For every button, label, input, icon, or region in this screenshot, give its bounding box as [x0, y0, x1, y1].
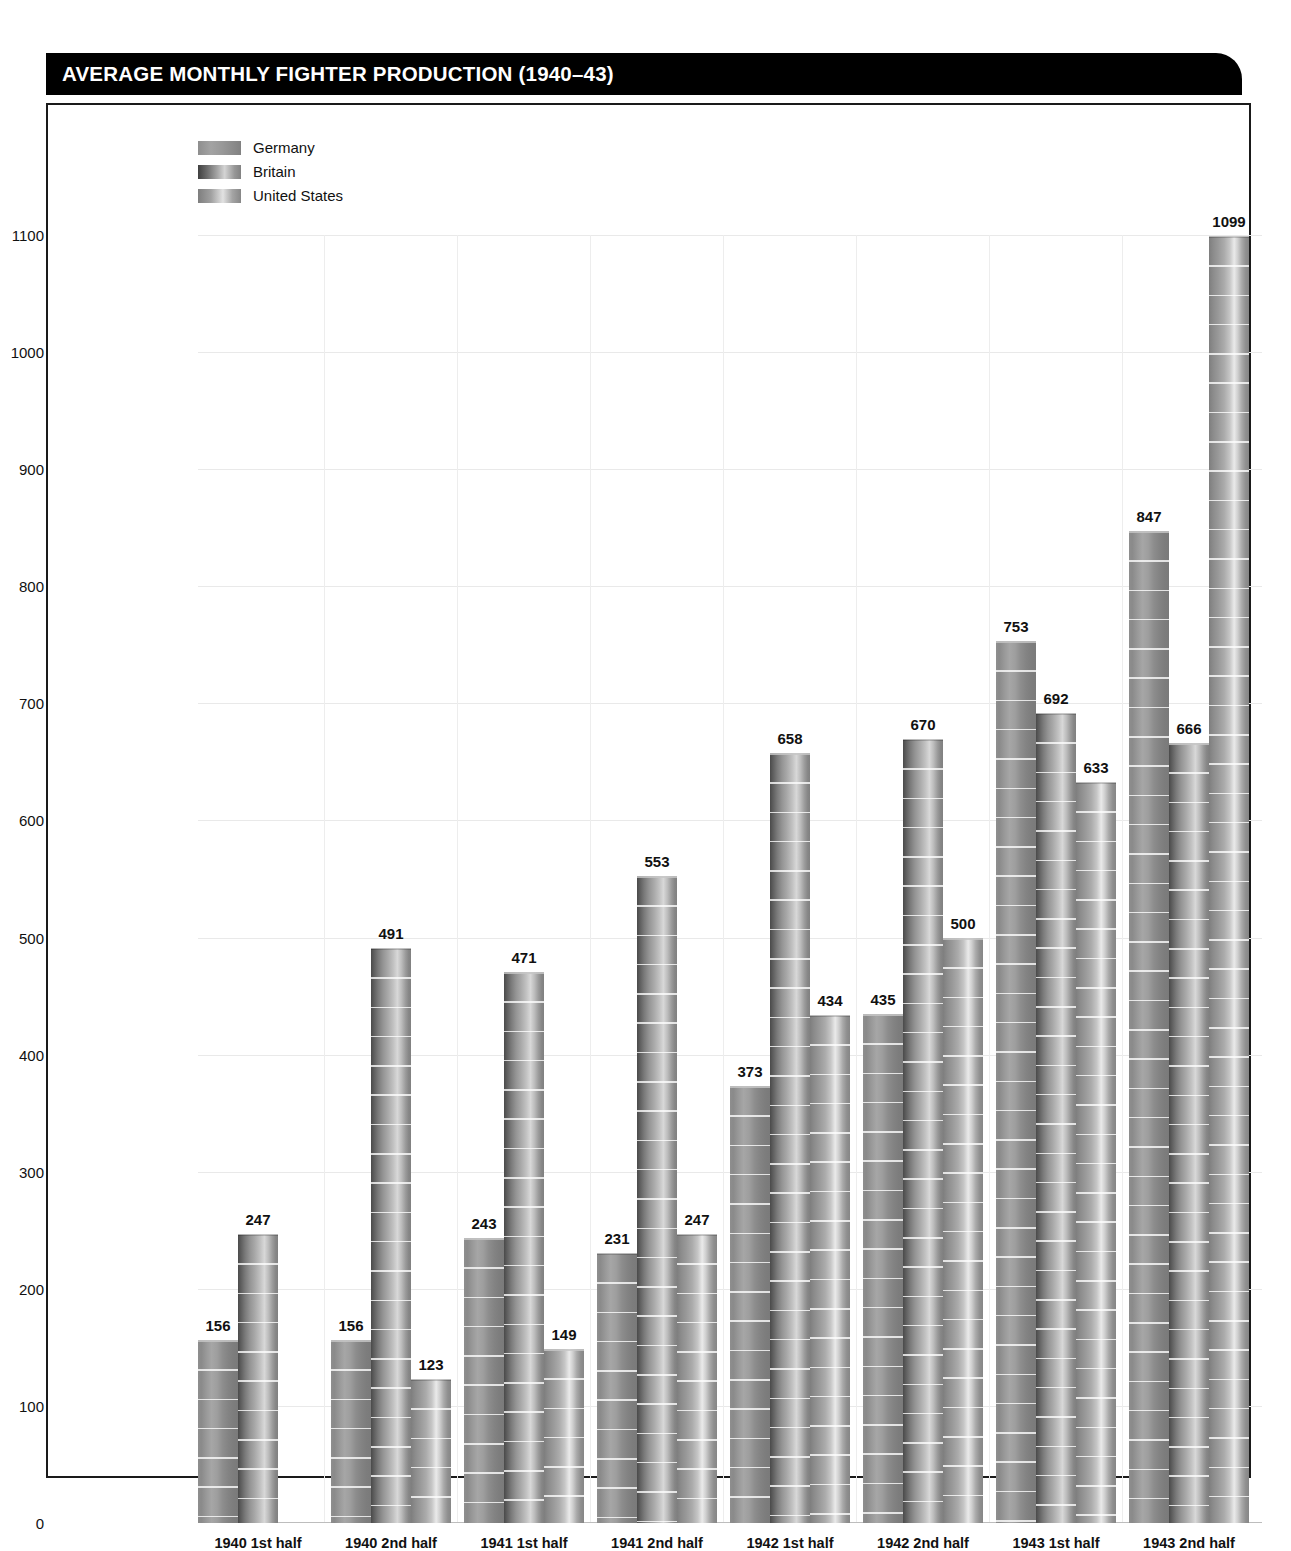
y-axis-tick-label: 900: [0, 461, 44, 478]
bar-top-edge: [464, 1238, 504, 1240]
bar-us: [943, 938, 983, 1523]
y-axis-tick-label: 500: [0, 929, 44, 946]
bar-value-label: 434: [817, 992, 842, 1009]
legend-label-united-states: United States: [253, 187, 343, 204]
bar-group: 753692633: [996, 235, 1116, 1523]
title-banner: AVERAGE MONTHLY FIGHTER PRODUCTION (1940…: [46, 53, 1242, 95]
bar-group: 243471149: [464, 235, 584, 1523]
y-axis-tick-label: 1100: [0, 227, 44, 244]
bar-top-edge: [238, 1234, 278, 1236]
bar-us: [677, 1234, 717, 1523]
bar-top-edge: [1209, 236, 1249, 238]
bar-value-label: 247: [245, 1211, 270, 1228]
bar-segment-rings: [238, 1234, 278, 1523]
bar-top-edge: [1129, 531, 1169, 533]
bar-value-label: 435: [870, 991, 895, 1008]
y-axis-tick-label: 100: [0, 1397, 44, 1414]
bar-top-edge: [198, 1340, 238, 1342]
bar-top-edge: [1036, 713, 1076, 715]
bar-segment-rings: [863, 1014, 903, 1523]
bar-segment-rings: [331, 1340, 371, 1523]
bar-group: 156491123: [331, 235, 451, 1523]
bar-top-edge: [996, 641, 1036, 643]
x-axis-tick-label: 1940 2nd half: [345, 1535, 437, 1551]
bar-us: [810, 1015, 850, 1523]
x-axis-tick-label: 1942 1st half: [746, 1535, 833, 1551]
bar-value-label: 156: [205, 1317, 230, 1334]
bar-segment-rings: [597, 1253, 637, 1523]
bar-value-label: 658: [777, 730, 802, 747]
bar-group: 231553247: [597, 235, 717, 1523]
bar-britain: [1036, 713, 1076, 1523]
bar-segment-rings: [810, 1015, 850, 1523]
bar-segment-rings: [504, 972, 544, 1523]
bar-segment-rings: [198, 1340, 238, 1523]
bar-segment-rings: [1129, 531, 1169, 1523]
y-axis-tick-label: 0: [0, 1515, 44, 1532]
bar-value-label: 231: [604, 1230, 629, 1247]
bar-top-edge: [770, 753, 810, 755]
chart-legend: Germany Britain United States: [198, 137, 398, 209]
bar-top-edge: [411, 1379, 451, 1381]
bar-germany: [996, 641, 1036, 1523]
bar-segment-rings: [943, 938, 983, 1523]
bar-top-edge: [730, 1086, 770, 1088]
bar-germany: [730, 1086, 770, 1523]
y-axis-tick-label: 800: [0, 578, 44, 595]
y-axis-tick-label: 200: [0, 1280, 44, 1297]
bar-value-label: 156: [338, 1317, 363, 1334]
bar-us: [1076, 782, 1116, 1523]
x-axis-tick-label: 1943 1st half: [1012, 1535, 1099, 1551]
bar-britain: [903, 739, 943, 1524]
bar-group: 373658434: [730, 235, 850, 1523]
bar-value-label: 1099: [1212, 213, 1245, 230]
bar-britain: [371, 948, 411, 1523]
bar-britain: [1169, 743, 1209, 1523]
bar-germany: [464, 1238, 504, 1523]
bar-top-edge: [903, 739, 943, 741]
bar-top-edge: [1076, 782, 1116, 784]
bar-value-label: 149: [551, 1326, 576, 1343]
bar-value-label: 373: [737, 1063, 762, 1080]
bar-us: [1209, 236, 1249, 1523]
bar-value-label: 666: [1176, 720, 1201, 737]
category-separator: [723, 235, 724, 1523]
bar-value-label: 692: [1043, 690, 1068, 707]
x-axis-tick-label: 1943 2nd half: [1143, 1535, 1235, 1551]
bar-value-label: 753: [1003, 618, 1028, 635]
category-separator: [989, 235, 990, 1523]
bar-value-label: 243: [471, 1215, 496, 1232]
bar-value-label: 123: [418, 1356, 443, 1373]
plot-area: 010020030040050060070080090010001100 156…: [198, 235, 1262, 1523]
bar-segment-rings: [1169, 743, 1209, 1523]
bar-segment-rings: [544, 1349, 584, 1523]
bar-germany: [1129, 531, 1169, 1523]
bar-segment-rings: [1076, 782, 1116, 1523]
bar-segment-rings: [903, 739, 943, 1524]
bar-top-edge: [544, 1349, 584, 1351]
bar-germany: [331, 1340, 371, 1523]
x-axis-tick-label: 1942 2nd half: [877, 1535, 969, 1551]
y-axis-tick-label: 600: [0, 812, 44, 829]
bar-top-edge: [597, 1253, 637, 1255]
x-axis-tick-label: 1940 1st half: [214, 1535, 301, 1551]
bar-top-edge: [637, 876, 677, 878]
bar-segment-rings: [1209, 236, 1249, 1523]
legend-label-britain: Britain: [253, 163, 296, 180]
legend-item-germany: Germany: [198, 137, 398, 158]
bar-top-edge: [331, 1340, 371, 1342]
bar-germany: [863, 1014, 903, 1523]
bar-britain: [637, 876, 677, 1524]
bar-segment-rings: [770, 753, 810, 1523]
bar-segment-rings: [677, 1234, 717, 1523]
page-title: AVERAGE MONTHLY FIGHTER PRODUCTION (1940…: [62, 62, 614, 86]
plot-frame: Germany Britain United States 0100200300…: [46, 103, 1251, 1478]
x-axis-tick-label: 1941 1st half: [480, 1535, 567, 1551]
y-axis-tick-label: 1000: [0, 344, 44, 361]
bar-value-label: 247: [684, 1211, 709, 1228]
bar-germany: [198, 1340, 238, 1523]
bar-segment-rings: [371, 948, 411, 1523]
bar-britain: [504, 972, 544, 1523]
category-separator: [1122, 235, 1123, 1523]
legend-label-germany: Germany: [253, 139, 315, 156]
